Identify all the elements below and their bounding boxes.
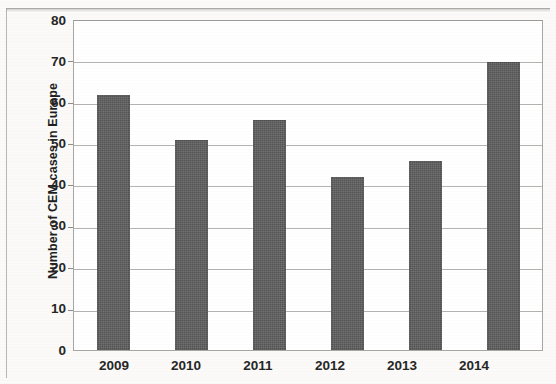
gridline-10: [74, 311, 542, 312]
bar-2013: [409, 161, 442, 350]
x-tick-label-2013: 2013: [366, 358, 438, 373]
y-tick-label-40: 40: [28, 177, 66, 192]
x-tick-label-2012: 2012: [294, 358, 366, 373]
y-tick-label-10: 10: [28, 301, 66, 316]
bar-2012: [331, 177, 364, 350]
y-tick-label-30: 30: [28, 218, 66, 233]
y-tick-label-0: 0: [28, 343, 66, 358]
bar-2014: [487, 62, 520, 350]
y-tick-label-50: 50: [28, 136, 66, 151]
x-tick-label-2011: 2011: [222, 358, 294, 373]
chart-page: Number of CEM cases in Europe 80 70 60 5…: [0, 0, 556, 384]
y-tick-label-80: 80: [28, 13, 66, 28]
bar-2009: [97, 95, 130, 350]
gridline-40: [74, 186, 542, 187]
y-tick-label-20: 20: [28, 260, 66, 275]
gridline-30: [74, 228, 542, 229]
x-tick-label-2009: 2009: [78, 358, 150, 373]
bar-2011: [253, 120, 286, 350]
bar-2010: [175, 140, 208, 350]
gridline-60: [74, 104, 542, 105]
x-tick-label-2014: 2014: [438, 358, 510, 373]
gridline-50: [74, 145, 542, 146]
plot-area: [73, 20, 543, 351]
y-tick-label-60: 60: [28, 95, 66, 110]
y-tick-label-70: 70: [28, 54, 66, 69]
gridline-70: [74, 62, 542, 63]
gridline-20: [74, 269, 542, 270]
x-tick-label-2010: 2010: [150, 358, 222, 373]
bar-chart: Number of CEM cases in Europe 80 70 60 5…: [0, 0, 556, 384]
